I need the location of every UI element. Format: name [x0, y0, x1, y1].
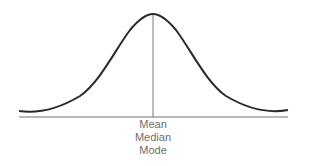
label-mode: Mode	[113, 144, 193, 157]
central-tendency-labels: Mean Median Mode	[113, 118, 193, 157]
label-mean: Mean	[113, 118, 193, 131]
label-median: Median	[113, 131, 193, 144]
